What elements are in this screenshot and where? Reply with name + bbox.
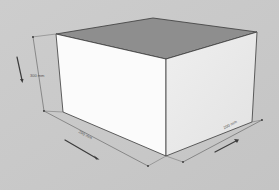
- box-diagram: 300 mm 200 mm 200 mm: [0, 0, 279, 190]
- box-drawing: [0, 0, 279, 190]
- height-label: 300 mm: [30, 74, 44, 78]
